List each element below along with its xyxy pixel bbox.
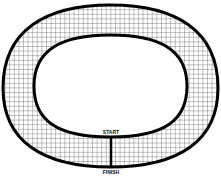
finish-label: FINISH — [103, 169, 120, 175]
start-label: START — [103, 129, 119, 135]
inner-track-border — [34, 35, 187, 137]
race-track-diagram: START FINISH — [0, 0, 221, 176]
